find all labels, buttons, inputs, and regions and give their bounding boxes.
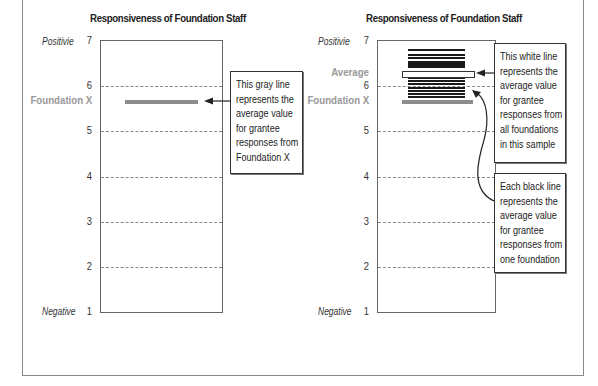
gray-line-callout: This gray line represents the average va… — [230, 71, 303, 174]
left-tick-1: 1 — [75, 305, 92, 317]
gridline-2 — [378, 267, 495, 268]
right-tick-4: 4 — [352, 170, 369, 182]
right-tick-5: 5 — [352, 124, 369, 136]
left-pole-negative: Negative — [42, 306, 76, 317]
gridline-2 — [101, 267, 222, 268]
right-plot-area — [377, 40, 496, 313]
left-tick-7: 7 — [75, 34, 92, 46]
right-tick-6: 6 — [352, 79, 369, 91]
left-tick-2: 2 — [75, 260, 92, 272]
right-tick-7: 7 — [352, 34, 369, 46]
gridline-4 — [378, 177, 495, 178]
left-tick-4: 4 — [75, 170, 92, 182]
right-tick-3: 3 — [352, 215, 369, 227]
right-average-label: Average — [331, 66, 369, 78]
left-tick-5: 5 — [75, 124, 92, 136]
average-bar — [402, 71, 475, 78]
left-chart-title: Responsiveness of Foundation Staff — [90, 12, 246, 24]
left-tick-3: 3 — [75, 215, 92, 227]
gridline-5 — [378, 131, 495, 132]
white-line-callout: This white line represents the average v… — [494, 43, 566, 163]
foundation-x-bar — [402, 100, 473, 104]
right-pole-negative: Negative — [318, 306, 352, 317]
gridline-3 — [101, 222, 222, 223]
black-line-callout: Each black line represents the average v… — [494, 173, 566, 273]
gridline-6 — [101, 86, 222, 87]
left-foundation-x-label: Foundation X — [30, 94, 92, 106]
left-plot-area — [100, 40, 223, 313]
right-chart-title: Responsiveness of Foundation Staff — [366, 12, 522, 24]
left-tick-6: 6 — [75, 79, 92, 91]
gridline-5 — [101, 131, 222, 132]
foundation-x-bar — [125, 100, 198, 104]
right-foundation-x-label: Foundation X — [307, 94, 369, 106]
gridline-4 — [101, 177, 222, 178]
right-tick-1: 1 — [352, 305, 369, 317]
left-pole-positive: Positivie — [42, 36, 74, 47]
right-tick-2: 2 — [352, 260, 369, 272]
gridline-3 — [378, 222, 495, 223]
right-pole-positive: Positivie — [318, 36, 350, 47]
